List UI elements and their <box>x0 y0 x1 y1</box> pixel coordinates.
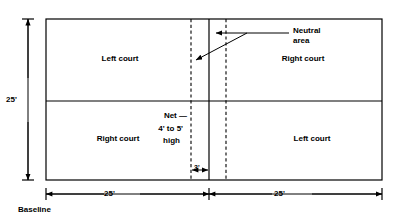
court-outline <box>46 19 382 180</box>
neutral-area-label-line1: Neutral <box>293 26 321 36</box>
court-diagram-graphics <box>0 0 402 218</box>
net-label-line2: 4' to 5' <box>125 124 183 134</box>
neutral-width-dimension-label: 3' <box>194 164 200 171</box>
net-label-line3: high <box>125 136 180 146</box>
court-label-top-right: Right court <box>240 54 366 64</box>
court-diagram: Left court Right court Right court Left … <box>0 0 402 218</box>
width-left-dimension-label: 25' <box>104 189 140 198</box>
height-dimension-label: 25' <box>6 95 17 104</box>
baseline-label: Baseline <box>18 205 51 215</box>
neutral-area-label-line2: area <box>293 36 309 46</box>
net-label-line1: Net — <box>125 111 187 121</box>
court-label-bottom-right: Left court <box>252 134 372 144</box>
width-right-dimension-label: 25' <box>274 189 310 198</box>
court-label-top-left: Left court <box>60 54 180 64</box>
